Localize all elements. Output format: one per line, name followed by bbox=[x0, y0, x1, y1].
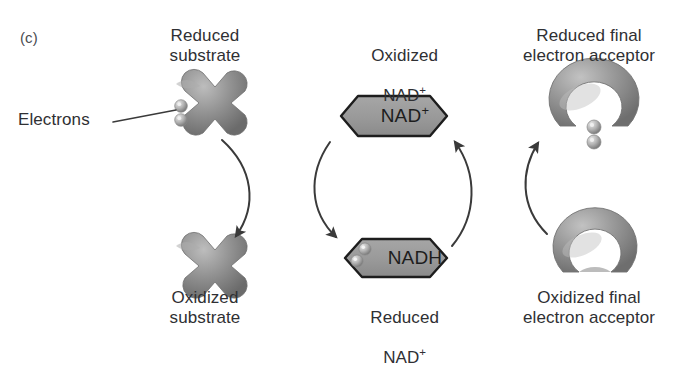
electrons-leader-line bbox=[113, 110, 176, 122]
reduced-nad-line2: NAD bbox=[383, 348, 419, 367]
reduced-acceptor-shape bbox=[549, 58, 639, 126]
reduced-substrate-electrons bbox=[175, 100, 188, 127]
reduced-substrate-label: Reduced substrate bbox=[170, 26, 241, 66]
oxidized-acceptor-shape bbox=[553, 208, 637, 272]
nad-plus-superscript: + bbox=[421, 103, 429, 118]
substrate-oxidation-arrow bbox=[222, 140, 250, 236]
oxidized-acceptor-label: Oxidized final electron acceptor bbox=[523, 288, 655, 328]
nadh-node-label: NADH bbox=[366, 225, 443, 291]
nad-oxidation-arrow bbox=[452, 142, 472, 246]
panel-label: (c) bbox=[20, 29, 38, 47]
nad-plus-text: NAD bbox=[381, 105, 422, 126]
nadh-text: NADH bbox=[388, 247, 443, 268]
oxidized-nad-line1: Oxidized bbox=[371, 46, 438, 65]
acceptor-reduction-arrow bbox=[526, 143, 547, 234]
reduced-acceptor-label: Reduced final electron acceptor bbox=[523, 26, 655, 66]
reduced-nad-label: Reduced NAD+ bbox=[351, 288, 439, 367]
reduced-nad-superscript: + bbox=[419, 346, 426, 358]
electrons-label: Electrons bbox=[18, 110, 90, 130]
reduced-acceptor-electrons bbox=[587, 120, 601, 149]
oxidized-substrate-label: Oxidized substrate bbox=[170, 288, 241, 328]
nad-reduction-arrow bbox=[314, 142, 336, 237]
reduced-nad-line1: Reduced bbox=[370, 308, 439, 327]
nad-plus-node-label: NAD+ bbox=[359, 83, 429, 149]
reduced-substrate-shape bbox=[176, 69, 247, 135]
